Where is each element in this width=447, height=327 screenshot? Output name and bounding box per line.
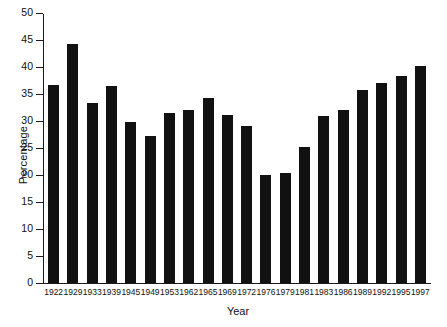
- bar: [106, 86, 117, 283]
- x-axis-tick-labels: 1922192919331939194519491953196219651969…: [43, 286, 433, 300]
- bar: [260, 175, 271, 283]
- x-axis-line: [43, 283, 431, 284]
- y-axis-tick: 40: [36, 67, 43, 68]
- y-axis-tick: 50: [36, 13, 43, 14]
- bar: [183, 110, 194, 283]
- bar-chart: Percentage 05101520253035404550 19221929…: [0, 0, 447, 327]
- x-axis-title: Year: [43, 303, 433, 319]
- y-axis-tick-label: 0: [27, 276, 33, 289]
- y-axis-tick: 30: [36, 121, 43, 122]
- y-axis-tick: 20: [36, 175, 43, 176]
- y-axis-tick-label: 10: [21, 222, 33, 235]
- y-axis-tick-label: 5: [27, 249, 33, 262]
- y-axis-tick: 0: [36, 283, 43, 284]
- bar: [67, 44, 78, 283]
- y-axis-tick-label: 15: [21, 195, 33, 208]
- bar: [318, 116, 329, 283]
- bar: [145, 136, 156, 283]
- bar: [125, 122, 136, 283]
- y-axis-tick: 35: [36, 94, 43, 95]
- x-axis-tick-label: 1997: [405, 286, 435, 298]
- bar: [48, 85, 59, 283]
- bar: [87, 103, 98, 283]
- y-axis-tick: 10: [36, 229, 43, 230]
- y-axis-tick: 25: [36, 148, 43, 149]
- y-axis-tick-label: 50: [21, 6, 33, 19]
- y-axis-tick-label: 45: [21, 33, 33, 46]
- y-axis-tick: 15: [36, 202, 43, 203]
- bar: [376, 83, 387, 283]
- y-axis-tick-label: 30: [21, 114, 33, 127]
- bar: [299, 147, 310, 283]
- bar: [222, 115, 233, 283]
- bars-layer: [43, 13, 433, 283]
- bar: [396, 76, 407, 283]
- y-axis-tick: 45: [36, 40, 43, 41]
- y-axis-tick-label: 20: [21, 168, 33, 181]
- y-axis-tick-label: 35: [21, 87, 33, 100]
- y-axis-tick-label: 25: [21, 141, 33, 154]
- bar: [357, 90, 368, 283]
- bar: [280, 173, 291, 283]
- bar: [203, 98, 214, 283]
- y-axis-tick-label: 40: [21, 60, 33, 73]
- bar: [164, 113, 175, 283]
- y-axis-tick: 5: [36, 256, 43, 257]
- bar: [241, 126, 252, 283]
- bar: [415, 66, 426, 283]
- bar: [338, 110, 349, 283]
